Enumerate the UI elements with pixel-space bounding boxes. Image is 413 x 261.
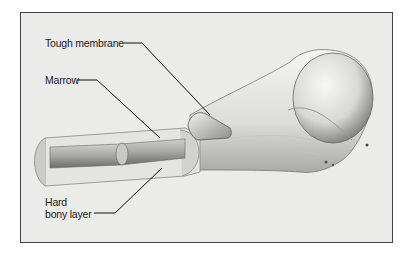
leader-marrow [77, 80, 160, 138]
label-hard-line2: bony layer [45, 208, 91, 220]
leader-tough-membrane [124, 43, 210, 115]
label-tough-membrane: Tough membrane [45, 37, 124, 49]
label-hard-line1: Hard [45, 196, 67, 208]
bone-body [190, 50, 373, 173]
label-marrow: Marrow [45, 74, 79, 86]
